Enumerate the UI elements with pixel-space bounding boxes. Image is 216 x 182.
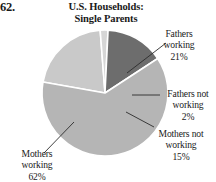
slice-label-line-1: Fathers not xyxy=(160,88,216,99)
slice-label-mothers-working: Mothers working 62% xyxy=(4,148,70,182)
slice-value: 21% xyxy=(148,51,210,62)
slice-label-line-1: Fathers xyxy=(148,28,210,39)
slice-value: 15% xyxy=(146,151,216,162)
slice-label-line-2: working xyxy=(146,139,216,150)
slice-value: 2% xyxy=(160,111,216,122)
slice-value: 62% xyxy=(4,171,70,182)
slice-label-line-2: working xyxy=(160,99,216,110)
slice-label-fathers-working: Fathers working 21% xyxy=(148,28,210,62)
slice-label-line-1: Mothers not xyxy=(146,128,216,139)
slice-label-line-2: working xyxy=(4,159,70,170)
slice-label-mothers-not-working: Mothers not working 15% xyxy=(146,128,216,162)
chart-figure: 62. U.S. Households: Single Parents Fath… xyxy=(0,0,216,182)
slice-label-fathers-not-working: Fathers not working 2% xyxy=(160,88,216,122)
slice-label-line-2: working xyxy=(148,39,210,50)
slice-label-line-1: Mothers xyxy=(4,148,70,159)
